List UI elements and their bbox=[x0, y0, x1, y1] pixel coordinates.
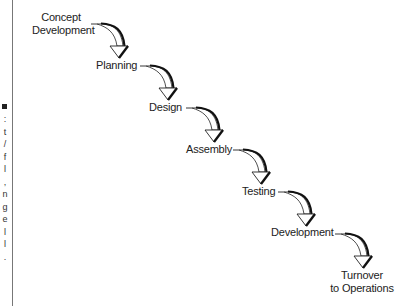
arrow-concept-to-planning bbox=[91, 24, 128, 59]
flow-arrows bbox=[0, 0, 408, 306]
arrow-testing-to-development bbox=[278, 192, 315, 227]
arrow-planning-to-design bbox=[140, 66, 177, 101]
arrow-assembly-to-testing bbox=[233, 150, 270, 185]
arrow-design-to-assembly bbox=[186, 108, 223, 143]
arrow-development-to-turnover bbox=[335, 234, 372, 269]
